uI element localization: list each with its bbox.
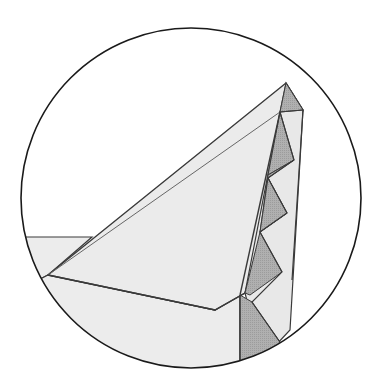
origami-diagram [0, 0, 383, 388]
